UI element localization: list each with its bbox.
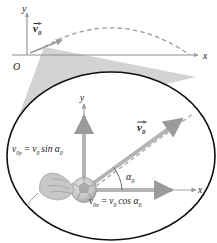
magnified-y-label: y bbox=[79, 93, 85, 103]
magnified-view: y x v0 α0 v0y=v0sin α0 v0x=v0cos α0 bbox=[7, 72, 215, 240]
overview-x-label: x bbox=[202, 50, 208, 61]
overview-trajectory bbox=[44, 28, 190, 55]
overview-y-label: y bbox=[21, 3, 27, 14]
overview-origin-label: O bbox=[13, 61, 20, 72]
magnifier-circle bbox=[7, 72, 215, 240]
magnified-x-label: x bbox=[197, 185, 203, 195]
figure-canvas: v0 y x O bbox=[0, 0, 217, 243]
projectile-velocity-figure: v0 y x O bbox=[0, 0, 217, 243]
overview-velocity-label: v0 bbox=[33, 22, 42, 36]
